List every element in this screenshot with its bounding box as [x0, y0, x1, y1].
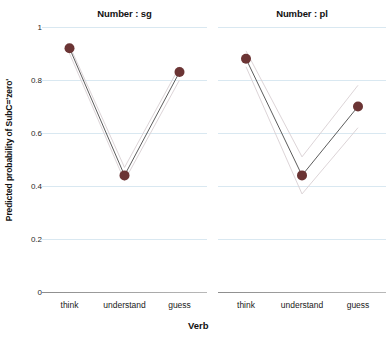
plot-area-sg: thinkunderstandguess	[42, 0, 207, 347]
data-point-marker	[65, 43, 75, 53]
confidence-upper-line	[70, 46, 180, 168]
data-point-marker	[241, 54, 251, 64]
x-axis-tick-label: think	[61, 300, 79, 310]
data-point-marker	[175, 67, 185, 77]
data-line	[70, 48, 180, 175]
y-axis-title-text: Predicted probability of SubC='zero'	[4, 79, 14, 221]
x-axis-tick-label: guess	[347, 300, 370, 310]
data-point-marker	[353, 102, 363, 112]
y-axis-tick-label: 0.4	[31, 182, 42, 191]
data-line	[246, 59, 358, 176]
plot-area-pl: thinkunderstandguess	[218, 0, 386, 347]
confidence-lower-line	[70, 54, 180, 181]
panel-number-sg: Number : sg thinkunderstandguess	[42, 0, 207, 347]
x-axis-tick-label: understand	[103, 300, 146, 310]
data-layer	[42, 0, 207, 347]
figure-container: Predicted probability of SubC='zero' 00.…	[0, 0, 390, 347]
panel-number-pl: Number : pl thinkunderstandguess	[218, 0, 386, 347]
data-point-marker	[120, 170, 130, 180]
y-axis-tick-label: 0.6	[31, 129, 42, 138]
x-axis-tick-label: understand	[281, 300, 324, 310]
x-axis-tick-label: think	[237, 300, 255, 310]
x-axis-tick-label: guess	[168, 300, 191, 310]
data-point-marker	[297, 170, 307, 180]
y-axis-tick-labels: 00.20.40.60.81	[18, 0, 42, 347]
data-layer	[218, 0, 386, 347]
y-axis-tick-label: 0.2	[31, 235, 42, 244]
y-axis-title: Predicted probability of SubC='zero'	[0, 0, 18, 300]
x-axis-title: Verb	[188, 320, 209, 331]
y-axis-tick-label: 0.8	[31, 76, 42, 85]
